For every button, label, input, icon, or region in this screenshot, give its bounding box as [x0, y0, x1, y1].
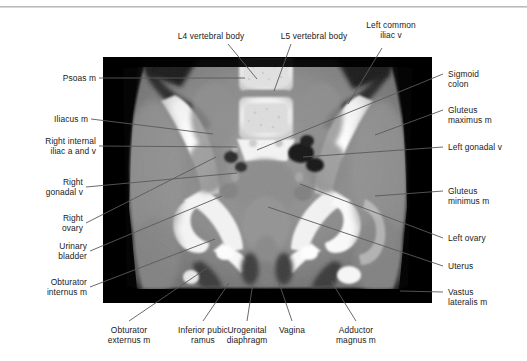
- label-right-gonadal-v: Right gonadal v: [10, 177, 83, 197]
- figure-root: L4 vertebral body L5 vertebral body Left…: [0, 0, 527, 361]
- label-obturator-externus-m: Obturator externus m: [92, 325, 166, 345]
- label-uterus: Uterus: [448, 261, 526, 271]
- label-left-common-iliac-v: Left common iliac v: [352, 20, 430, 40]
- label-right-ovary: Right ovary: [10, 213, 83, 233]
- label-vastus-lateralis-m: Vastus lateralis m: [448, 287, 526, 307]
- label-l5-vertebral-body: L5 vertebral body: [267, 31, 361, 41]
- label-gluteus-maximus-m: Gluteus maximus m: [448, 105, 526, 125]
- label-sigmoid-colon: Sigmoid colon: [448, 69, 526, 89]
- label-right-internal-iliac-a-and-v: Right internal iliac a and v: [6, 136, 96, 156]
- label-iliacus-m: Iliacus m: [10, 114, 88, 124]
- label-urinary-bladder: Urinary bladder: [10, 241, 87, 261]
- label-vagina: Vagina: [271, 325, 313, 335]
- label-psoas-m: Psoas m: [10, 73, 96, 83]
- label-adductor-magnus-m: Adductor magnus m: [320, 325, 392, 345]
- label-left-gonadal-v: Left gonadal v: [448, 142, 526, 152]
- label-obturator-internus-m: Obturator internus m: [6, 277, 87, 297]
- label-l4-vertebral-body: L4 vertebral body: [164, 31, 258, 41]
- label-gluteus-minimus-m: Gluteus minimus m: [448, 186, 526, 206]
- ct-scan-image: [103, 57, 432, 303]
- top-divider-rule-shadow: [0, 7, 527, 8]
- label-left-ovary: Left ovary: [448, 233, 526, 243]
